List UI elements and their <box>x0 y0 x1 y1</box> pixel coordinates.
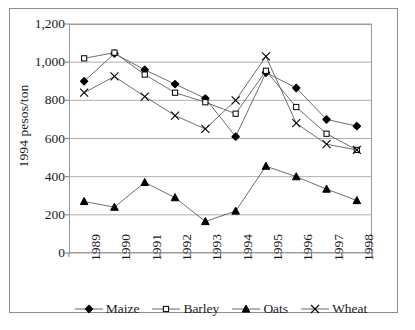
gridlines <box>69 24 372 253</box>
series-oats <box>80 162 360 224</box>
chart-legend: MaizeBarleyOatsWheat <box>69 302 372 316</box>
data-series-layer <box>80 50 361 225</box>
plot-canvas <box>0 0 415 330</box>
legend-label: Maize <box>106 302 140 316</box>
open-square-icon <box>151 302 181 316</box>
filled-triangle-icon <box>231 302 261 316</box>
series-barley <box>82 50 360 153</box>
legend-label: Wheat <box>332 302 367 316</box>
legend-label: Oats <box>263 302 288 316</box>
legend-item-barley[interactable]: Barley <box>151 302 219 316</box>
legend-label: Barley <box>183 302 219 316</box>
filled-diamond-icon <box>74 302 104 316</box>
cross-x-icon <box>300 302 330 316</box>
legend-item-oats[interactable]: Oats <box>231 302 288 316</box>
legend-item-wheat[interactable]: Wheat <box>300 302 367 316</box>
axis-ticks <box>65 24 372 257</box>
legend-item-maize[interactable]: Maize <box>74 302 140 316</box>
chart-figure: 1994 pesos/ton 02004006008001,0001,200 1… <box>0 0 415 330</box>
